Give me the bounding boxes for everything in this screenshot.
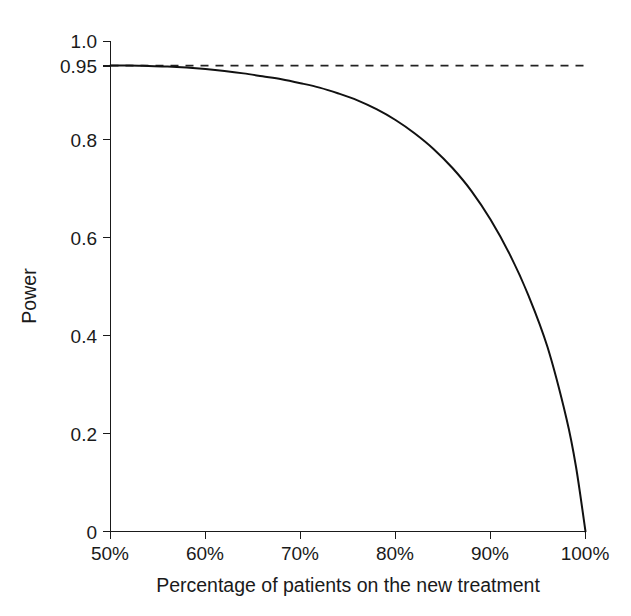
y-tick-label-0.2: 0.2 [71, 424, 97, 445]
power-curve-line [111, 65, 586, 531]
chart-page: 1.0 0.95 0.8 0.6 0.4 0.2 0 50% 60% 70% 8… [0, 0, 631, 616]
y-tick-label-0.8: 0.8 [71, 130, 97, 151]
x-tick-label-70: 70% [281, 543, 319, 564]
x-tick-label-50: 50% [91, 543, 129, 564]
y-tick-label-0: 0 [86, 522, 97, 543]
y-tick-label-0.95: 0.95 [60, 56, 97, 77]
x-tick-label-90: 90% [471, 543, 509, 564]
y-axis-title: Power [18, 268, 40, 324]
x-tick-label-100: 100% [561, 543, 610, 564]
x-tick-label-80: 80% [376, 543, 414, 564]
y-tick-label-1.0: 1.0 [71, 31, 97, 52]
y-tick-label-0.6: 0.6 [71, 228, 97, 249]
x-tick-label-60: 60% [186, 543, 224, 564]
x-axis-title: Percentage of patients on the new treatm… [156, 574, 540, 596]
y-tick-label-0.4: 0.4 [71, 326, 98, 347]
power-curve-chart: 1.0 0.95 0.8 0.6 0.4 0.2 0 50% 60% 70% 8… [0, 0, 631, 616]
